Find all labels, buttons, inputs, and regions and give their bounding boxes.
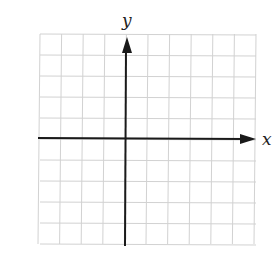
y-axis bbox=[122, 37, 132, 246]
x-axis-arrow-icon bbox=[240, 134, 256, 144]
y-axis-label: y bbox=[121, 10, 132, 30]
y-axis-arrow-icon bbox=[122, 37, 132, 53]
x-axis-label: x bbox=[262, 129, 272, 149]
coordinate-plane: x y bbox=[0, 0, 277, 256]
